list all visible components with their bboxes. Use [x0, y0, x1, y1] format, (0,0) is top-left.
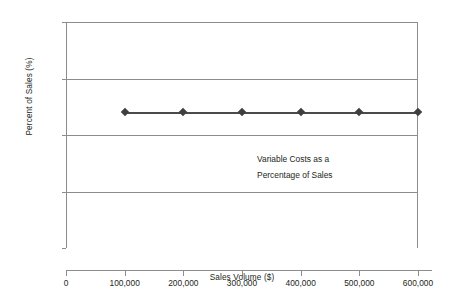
plot-right-border	[417, 22, 418, 248]
chart-container: Percent of Sales (%) 0255075100 0100,000…	[0, 0, 451, 299]
annotation-line: Percentage of Sales	[257, 168, 332, 184]
series-line-segment	[125, 112, 184, 114]
x-axis-title: Sales Volume ($)	[66, 273, 418, 282]
y-axis-line	[66, 22, 67, 248]
annotation-line: Variable Costs as a	[257, 152, 332, 168]
x-tick-mark	[418, 271, 419, 276]
gridline	[66, 192, 418, 193]
y-tick-mark	[62, 248, 66, 249]
data-point-marker	[120, 108, 128, 116]
data-point-marker	[296, 108, 304, 116]
plot-area: 0255075100 0100,000200,000300,000400,000…	[66, 22, 418, 248]
series-line-segment	[183, 112, 242, 114]
y-axis-title: Percent of Sales (%)	[25, 32, 34, 162]
data-point-marker	[414, 108, 422, 116]
gridline	[66, 79, 418, 80]
x-axis-line	[66, 270, 432, 271]
series-line-segment	[242, 112, 301, 114]
gridline	[66, 22, 418, 23]
gridline	[66, 135, 418, 136]
chart-annotation: Variable Costs as aPercentage of Sales	[257, 152, 332, 183]
series-line-segment	[301, 112, 360, 114]
data-point-marker	[179, 108, 187, 116]
series-line-segment	[359, 112, 418, 114]
data-point-marker	[355, 108, 363, 116]
data-point-marker	[238, 108, 246, 116]
